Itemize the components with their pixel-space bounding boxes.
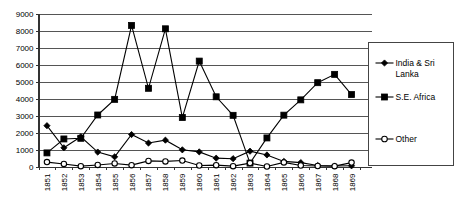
x-axis-tick-label: 1852 [60,173,69,191]
square-marker [349,92,355,98]
y-axis-tick-label: 4000 [16,95,34,104]
diamond-marker [213,155,219,161]
chart-container: 0100020003000400050006000700080009000 18… [0,0,464,205]
y-axis-tick-label: 2000 [16,129,34,138]
x-axis-tick-label: 1851 [43,173,52,191]
y-axis-tick-label: 3000 [16,112,34,121]
x-axis-tick-label: 1867 [314,173,323,191]
square-marker [196,58,202,64]
square-marker [332,71,338,77]
legend-label-continuation: Lanka [396,69,419,79]
square-marker [281,112,287,118]
square-marker [264,135,270,141]
chart-legend: India & SriLankaS.E. AfricaOther [369,43,454,166]
circle-marker [247,160,252,165]
x-axis-tick-label: 1858 [161,173,170,191]
circle-marker [163,159,168,164]
square-marker [44,150,50,156]
diamond-marker [264,152,270,158]
y-axis-tick-label: 9000 [16,10,34,19]
x-axis-tick-label: 1866 [297,173,306,191]
x-axis-tick-labels: 1851185218531854185518561857185818591860… [43,173,357,191]
x-axis-tick-label: 1868 [331,173,340,191]
x-axis-tick-label: 1865 [280,173,289,191]
series-line [47,25,352,163]
square-marker [61,136,67,142]
circle-marker [332,163,337,168]
square-marker [179,115,185,121]
y-axis-tick-label: 5000 [16,78,34,87]
square-marker [145,85,151,91]
x-axis-tick-label: 1861 [212,173,221,191]
circle-marker [78,163,83,168]
x-axis-tick-label: 1859 [178,173,187,191]
square-marker [213,94,219,100]
series-india-sri-lanka [44,123,355,169]
square-marker [129,22,135,28]
x-axis-tick-label: 1862 [229,173,238,191]
circle-marker [315,163,320,168]
x-axis-tick-label: 1857 [144,173,153,191]
series-line [47,126,352,166]
diamond-marker [247,148,253,154]
x-axis-tick-label: 1853 [77,173,86,191]
square-marker [298,97,304,103]
data-series-layer [44,22,355,169]
circle-marker [298,163,303,168]
series-s-e-africa [44,22,355,166]
square-marker [78,135,84,141]
circle-marker [382,136,388,142]
x-axis-tick-label: 1864 [263,173,272,191]
circle-marker [61,161,66,166]
circle-marker [230,163,235,168]
circle-marker [44,159,49,164]
line-chart: 0100020003000400050006000700080009000 18… [0,0,464,205]
circle-marker [281,160,286,165]
square-marker [382,94,388,100]
circle-marker [213,162,218,167]
legend-label: India & Sri [396,58,435,68]
diamond-marker [162,137,168,143]
diamond-marker [145,140,151,146]
circle-marker [129,162,134,167]
diamond-marker [179,147,185,153]
y-axis-tick-label: 1000 [16,146,34,155]
y-axis-tick-label: 0 [29,163,34,172]
y-axis-tick-label: 8000 [16,27,34,36]
square-marker [230,112,236,118]
square-marker [162,26,168,32]
grid-lines [39,15,373,151]
circle-marker [146,158,151,163]
square-marker [315,80,321,86]
y-axis-tick-label: 6000 [16,61,34,70]
legend-label: Other [396,134,417,144]
y-axis-tick-label: 7000 [16,44,34,53]
circle-marker [180,158,185,163]
y-axis-tick-labels: 0100020003000400050006000700080009000 [16,10,39,172]
diamond-marker [196,149,202,155]
x-axis-tick-label: 1863 [246,173,255,191]
x-axis-tick-label: 1855 [111,173,120,191]
x-axis-tick-label: 1860 [195,173,204,191]
diamond-marker [230,156,236,162]
circle-marker [95,162,100,167]
square-marker [112,96,118,102]
square-marker [95,112,101,118]
legend-label: S.E. Africa [396,92,436,102]
circle-marker [264,164,269,169]
circle-marker [112,161,117,166]
x-axis-tick-label: 1869 [348,173,357,191]
circle-marker [197,163,202,168]
circle-marker [349,160,354,165]
x-axis-tick-label: 1856 [128,173,137,191]
x-axis-tick-label: 1854 [94,173,103,191]
